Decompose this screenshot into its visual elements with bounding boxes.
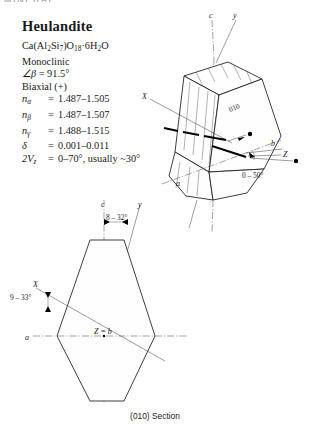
axis-Z-label-3d: Z [283,150,288,159]
axis-c-label-2d: c [101,200,105,209]
axis-y-label-2d: y [137,200,142,209]
axis-X-label-3d: X [141,92,148,101]
axis-c-line-3d [212,20,214,58]
axis-X-label-2d: X [32,280,39,289]
axis-a-label-2d: a [25,333,29,342]
angle-left-arrow-bottom [45,306,51,312]
optic-dir-segment-1 [164,128,178,131]
crystal-bottom-stub-center [212,200,213,232]
extinction-angle-label: 0 – 50° [242,171,263,180]
optic-axis-dot-upper [248,132,252,136]
optic-axis-dot-lower [294,159,298,163]
center-label-Z-equals-b: Z = b [94,327,112,336]
angle-left-arrow-top [45,292,51,298]
axis-a-label-3d: a [176,179,180,188]
figure-caption: (010) Section [0,411,310,421]
section-hexagon-outline [57,240,155,401]
crystal-diagram-3d: c y X [0,0,310,435]
axis-y-label-3d: y [232,11,237,20]
crystal-bottom-stub-left [189,200,197,228]
axis-b-label-3d: b [271,139,275,148]
figure-page: MINERAL Heulandite Ca(Al2Si7)O18·6H2O Mo… [0,0,310,435]
angle-left-label: 9 – 33° [10,293,31,302]
section-origin-dot [103,335,106,338]
axis-y-line-3d [216,20,236,63]
section-diagram-2d: c y a X Z = b 8 – 32° 9 – 33° [10,200,188,404]
axis-c-label-3d: c [209,11,213,20]
angle-top-label: 8 – 32° [106,213,127,222]
